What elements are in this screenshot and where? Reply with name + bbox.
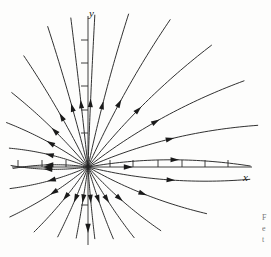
axes-layer	[12, 16, 252, 245]
trajectory-arrow-t12	[94, 194, 99, 203]
y-axis-label: y	[89, 8, 94, 19]
trajectory-arrow-t14	[81, 194, 86, 203]
trajectory-t14	[76, 167, 88, 238]
trajectory-arrow-t6	[165, 138, 174, 143]
clipped-caption-text: F e t	[262, 212, 271, 245]
trajectory-arrow-t18	[47, 177, 56, 182]
trajectory-arrow-t21	[45, 153, 54, 158]
trajectory-arrow-t2	[99, 101, 104, 110]
axis-flow-arrow-0	[124, 164, 133, 169]
x-axis-label: x	[243, 172, 248, 183]
trajectory-arrow-t3	[115, 100, 121, 109]
trajectory-arrow-t11	[102, 194, 109, 203]
trajectory-arrow-t5	[151, 120, 160, 126]
trajectory-arrow-t1	[88, 99, 93, 108]
trajectory-t25	[48, 27, 88, 167]
trajectory-arrow-t8	[166, 177, 175, 182]
trajectory-arrow-t22	[47, 141, 56, 147]
trajectory-arrow-t9	[138, 190, 147, 196]
trajectory-t9	[88, 167, 207, 214]
trajectory-t4	[88, 45, 212, 167]
trajectory-t5	[88, 81, 244, 167]
trajectory-arrow-t15	[74, 194, 80, 203]
trajectory-t11	[88, 167, 134, 238]
trajectory-t17	[10, 167, 88, 217]
trajectory-arrow-t25	[71, 103, 76, 112]
axis-flow-arrow-2	[85, 224, 90, 233]
trajectory-t22	[7, 123, 88, 167]
figure-canvas: y x F e t	[0, 0, 271, 257]
caption-line-2: e	[262, 223, 271, 234]
trajectory-arrow-t16	[63, 192, 70, 200]
caption-line-1: F	[262, 212, 271, 223]
trajectory-t1	[88, 15, 95, 167]
trajectory-arrow-t24	[59, 113, 65, 122]
trajectory-arrow-t17	[50, 188, 59, 195]
trajectory-arrow-t26	[79, 100, 84, 109]
trajectory-t7	[88, 160, 250, 167]
trajectory-t3	[88, 20, 170, 167]
trajectory-arrow-t7	[171, 157, 180, 162]
caption-line-3: t	[262, 234, 271, 245]
trajectories-layer	[7, 14, 258, 239]
phase-portrait-svg	[0, 0, 271, 257]
